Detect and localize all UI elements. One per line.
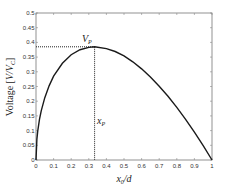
x-tick-label: 0.1 (49, 163, 58, 169)
y-tick-label: 0.15 (23, 113, 35, 119)
peak-guides (36, 47, 95, 160)
voltage-curve (36, 47, 212, 160)
x-tick-label: 0.7 (155, 163, 164, 169)
chart: 00.10.20.30.40.50.60.70.80.91 00.050.10.… (0, 0, 225, 186)
x-tick-label: 0.9 (190, 163, 199, 169)
plot-frame (36, 13, 212, 160)
y-tick-label: 0.25 (23, 84, 35, 90)
x-tick-label: 0.8 (173, 163, 182, 169)
y-tick-label: 0.5 (26, 10, 35, 16)
x-tick-label: 0.5 (120, 163, 129, 169)
x-tick-label: 0.6 (137, 163, 146, 169)
x-tick-label: 0 (34, 163, 38, 169)
y-tick-label: 0.05 (23, 142, 35, 148)
y-tick-label: 0.1 (26, 128, 35, 134)
y-tick-label: 0.3 (26, 69, 35, 75)
y-tick-labels: 00.050.10.150.20.250.30.350.40.450.5 (23, 10, 35, 163)
y-axis-label: Voltage [V/VC] (4, 58, 16, 117)
x-tick-label: 0.4 (102, 163, 111, 169)
x-tick-labels: 00.10.20.30.40.50.60.70.80.91 (34, 163, 214, 169)
y-tick-label: 0.4 (26, 39, 35, 45)
xp-annotation: xP (96, 115, 105, 127)
axis-ticks (36, 13, 212, 160)
axes-box (36, 13, 212, 160)
x-axis-label: x0/d (115, 173, 132, 185)
y-tick-label: 0.2 (26, 98, 35, 104)
y-tick-label: 0.35 (23, 54, 35, 60)
y-tick-label: 0.45 (23, 25, 35, 31)
x-tick-label: 0.2 (67, 163, 76, 169)
x-tick-label: 1 (210, 163, 214, 169)
vp-annotation: VP (82, 33, 92, 45)
x-tick-label: 0.3 (85, 163, 94, 169)
